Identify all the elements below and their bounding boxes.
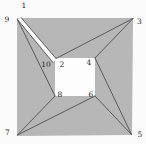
vertex-label-8: 8 bbox=[58, 90, 63, 99]
vertex-label-7: 7 bbox=[5, 128, 10, 137]
vertex-label-9: 9 bbox=[5, 15, 10, 24]
vertex-label-4: 4 bbox=[87, 58, 92, 67]
vertex-label-2: 2 bbox=[60, 60, 65, 69]
vertex-label-5: 5 bbox=[138, 130, 143, 139]
vertex-label-10: 10 bbox=[41, 60, 51, 69]
figure-canvas: 12345678910 bbox=[0, 0, 146, 144]
vertex-label-6: 6 bbox=[89, 90, 94, 99]
vertex-label-1: 1 bbox=[22, 1, 27, 10]
polygon-diagram: 12345678910 bbox=[0, 0, 146, 144]
vertex-label-3: 3 bbox=[137, 17, 142, 26]
